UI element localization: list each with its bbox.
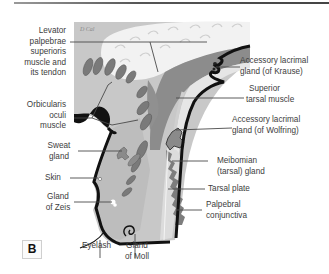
label-eyelash: Eyelash — [82, 241, 111, 252]
label-gland-zeis: Gland of Zeis — [40, 192, 76, 213]
label-tarsal-plate: Tarsal plate — [208, 184, 250, 195]
label-levator: Levator palpebrae superioris muscle and … — [10, 26, 66, 79]
signature: D Cal — [79, 26, 95, 32]
label-krause: Accessory lacrimal gland (of Krause) — [240, 56, 308, 77]
label-gland-moll: Gland of Moll — [121, 241, 153, 262]
label-superior-tarsal: Superior tarsal muscle — [246, 84, 294, 105]
label-orbicularis: Orbicularis oculi muscle — [10, 100, 66, 132]
label-wolfring: Accessory lacrimal gland (of Wolfring) — [232, 115, 300, 136]
label-palpebral-conjunctiva: Palpebral conjunctiva — [206, 200, 247, 221]
label-skin: Skin — [45, 173, 61, 184]
label-sweat-gland: Sweat gland — [42, 141, 76, 162]
label-meibomian: Meibomian (tarsal) gland — [217, 156, 265, 177]
panel-label-badge: B — [22, 240, 42, 259]
